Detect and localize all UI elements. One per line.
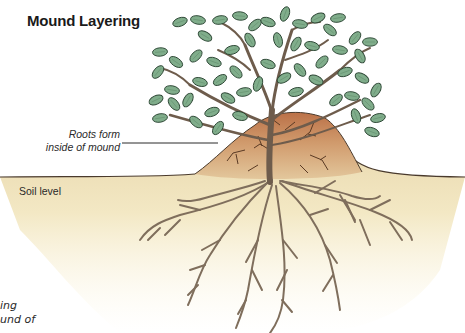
cutoff-caption: ing und of	[0, 299, 35, 327]
cutoff-caption-line1: ing	[0, 299, 35, 313]
roots-callout-line1: Roots form	[20, 128, 120, 141]
soil-level-label: Soil level	[19, 185, 61, 197]
roots-callout: Roots form inside of mound	[20, 128, 120, 154]
diagram-title: Mound Layering	[27, 12, 140, 29]
cutoff-caption-line2: und of	[0, 313, 35, 327]
roots-callout-line2: inside of mound	[20, 141, 120, 154]
mound-layering-illustration	[0, 0, 465, 333]
